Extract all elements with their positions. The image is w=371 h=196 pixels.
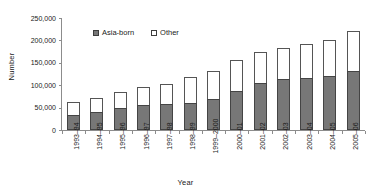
x-axis-tick-label: 1997–98 xyxy=(166,122,173,149)
x-axis-tick-label: 2004–05 xyxy=(329,122,336,149)
bar-segment-other[interactable] xyxy=(184,77,197,103)
x-axis-tick-label: 2000–01 xyxy=(236,122,243,149)
x-axis-label-slot: 2002–03 xyxy=(276,133,289,173)
legend-swatch-icon-other xyxy=(151,30,157,36)
x-axis-label-slot: 1994–95 xyxy=(89,133,102,173)
bar-segment-other[interactable] xyxy=(347,31,360,72)
x-axis-label-slot: 1999–2000 xyxy=(206,133,219,173)
x-axis-label-slot: 1995–96 xyxy=(113,133,126,173)
x-axis-label-slot: 1996–97 xyxy=(136,133,149,173)
bar-segment-asia-born[interactable] xyxy=(347,71,360,130)
y-axis-tick-label: 150,000 xyxy=(16,59,56,66)
x-axis-tick-label: 1995–96 xyxy=(119,122,126,149)
legend-swatch-icon-asia-born xyxy=(93,30,99,36)
x-axis-label-slot: 2005–06 xyxy=(346,133,359,173)
bar-segment-other[interactable] xyxy=(90,98,103,111)
y-axis-tick-label: 50,000 xyxy=(16,104,56,111)
y-axis-tick-mark xyxy=(59,108,62,109)
x-axis-label-slot: 1997–98 xyxy=(159,133,172,173)
bar-segment-other[interactable] xyxy=(114,92,127,107)
x-axis-label-slot: 2004–05 xyxy=(322,133,335,173)
x-axis-label-slot: 1993–94 xyxy=(66,133,79,173)
x-axis-title: Year xyxy=(0,178,371,187)
bar-segment-other[interactable] xyxy=(323,40,336,76)
bar-group[interactable] xyxy=(254,18,267,130)
bar-group[interactable] xyxy=(347,18,360,130)
bar-segment-other[interactable] xyxy=(137,87,150,104)
bar-segment-other[interactable] xyxy=(160,84,173,104)
bar-segment-other[interactable] xyxy=(230,60,243,91)
bar-group[interactable] xyxy=(277,18,290,130)
bar-group[interactable] xyxy=(230,18,243,130)
x-axis-tick-label: 1998–99 xyxy=(189,122,196,149)
y-axis-tick-label: 200,000 xyxy=(16,37,56,44)
stacked-bar-chart: Number 250,000200,000150,000100,00050,00… xyxy=(0,0,371,196)
y-axis-tick-mark xyxy=(59,85,62,86)
y-axis-tick-label: 100,000 xyxy=(16,82,56,89)
bar-segment-other[interactable] xyxy=(254,52,267,83)
bar-segment-other[interactable] xyxy=(207,71,220,99)
bar-segment-other[interactable] xyxy=(67,102,80,115)
x-axis-tick-label: 2003–04 xyxy=(306,122,313,149)
x-axis-tick-label: 1996–97 xyxy=(143,122,150,149)
bar-group[interactable] xyxy=(67,18,80,130)
y-axis-tick-mark xyxy=(59,63,62,64)
bar-segment-other[interactable] xyxy=(277,48,290,79)
legend-label-other: Other xyxy=(160,28,179,37)
bar-group[interactable] xyxy=(184,18,197,130)
x-axis-tick-label: 2001–02 xyxy=(259,122,266,149)
y-axis-tick-mark xyxy=(59,18,62,19)
x-axis-tick-mark xyxy=(365,131,366,134)
legend-label-asia-born: Asia-born xyxy=(102,28,134,37)
y-axis-tick-label: 250,000 xyxy=(16,15,56,22)
legend-item-other: Other xyxy=(151,28,179,37)
x-axis-tick-label: 1994–95 xyxy=(96,122,103,149)
bar-segment-other[interactable] xyxy=(300,44,313,78)
y-axis-tick-labels: 250,000200,000150,000100,00050,0000 xyxy=(14,0,56,196)
x-axis-tick-label: 2002–03 xyxy=(282,122,289,149)
chart-legend: Asia-born Other xyxy=(93,28,179,37)
bar-group[interactable] xyxy=(207,18,220,130)
x-axis-tick-labels: 1993–941994–951995–961996–971997–981998–… xyxy=(61,133,364,173)
x-axis-label-slot: 2003–04 xyxy=(299,133,312,173)
x-axis-tick-label: 1999–2000 xyxy=(212,118,219,153)
bar-group[interactable] xyxy=(300,18,313,130)
y-axis-tick-mark xyxy=(59,40,62,41)
x-axis-label-slot: 2000–01 xyxy=(229,133,242,173)
y-axis-tick-label: 0 xyxy=(16,127,56,134)
legend-item-asia-born: Asia-born xyxy=(93,28,134,37)
x-axis-tick-label: 1993–94 xyxy=(73,122,80,149)
x-axis-tick-label: 2005–06 xyxy=(352,122,359,149)
x-axis-label-slot: 2001–02 xyxy=(253,133,266,173)
bar-group[interactable] xyxy=(323,18,336,130)
x-axis-label-slot: 1998–99 xyxy=(183,133,196,173)
